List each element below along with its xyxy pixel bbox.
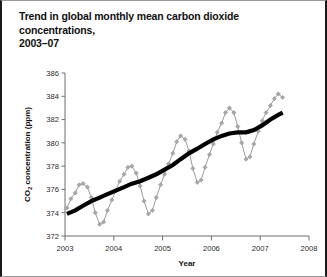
series-monthly-line bbox=[67, 94, 283, 224]
data-point-marker bbox=[142, 199, 146, 203]
data-point-marker bbox=[203, 165, 207, 169]
y-tick-label: 382 bbox=[46, 115, 59, 124]
data-point-marker bbox=[138, 184, 142, 188]
y-tick-label: 374 bbox=[46, 209, 59, 218]
chart-plot-area: 3723743763783803823843862003200420052006… bbox=[2, 1, 327, 277]
data-point-marker bbox=[171, 151, 175, 155]
data-point-marker bbox=[105, 208, 109, 212]
data-point-marker bbox=[77, 183, 81, 187]
co2-trend-chart: 3723743763783803823843862003200420052006… bbox=[2, 1, 327, 277]
data-point-marker bbox=[248, 155, 252, 159]
chart-series bbox=[65, 92, 285, 227]
data-point-marker bbox=[126, 165, 130, 169]
data-point-marker bbox=[220, 121, 224, 125]
data-point-marker bbox=[244, 157, 248, 161]
y-tick-label: 376 bbox=[46, 185, 59, 194]
x-tick-label: 2007 bbox=[252, 244, 269, 253]
data-point-marker bbox=[195, 180, 199, 184]
x-tick-label: 2006 bbox=[203, 244, 220, 253]
data-point-marker bbox=[159, 183, 163, 187]
data-point-marker bbox=[101, 220, 105, 224]
y-tick-label: 378 bbox=[46, 162, 59, 171]
data-point-marker bbox=[236, 124, 240, 128]
data-point-marker bbox=[207, 152, 211, 156]
data-point-marker bbox=[191, 166, 195, 170]
y-tick-label: 380 bbox=[46, 139, 59, 148]
data-point-marker bbox=[240, 141, 244, 145]
x-tick-label: 2003 bbox=[57, 244, 74, 253]
data-point-marker bbox=[154, 195, 158, 199]
data-point-marker bbox=[110, 198, 114, 202]
figure-container: Trend in global monthly mean carbon diox… bbox=[0, 0, 327, 277]
data-point-marker bbox=[199, 178, 203, 182]
series-trend-line bbox=[67, 113, 283, 214]
data-point-marker bbox=[98, 222, 102, 226]
y-axis-title: CO2 concentration (ppm) bbox=[23, 107, 33, 202]
x-axis-title: Year bbox=[179, 259, 196, 268]
data-point-marker bbox=[252, 142, 256, 146]
x-tick-label: 2004 bbox=[105, 244, 122, 253]
y-tick-label: 372 bbox=[46, 232, 59, 241]
y-tick-label: 386 bbox=[46, 69, 59, 78]
x-tick-label: 2008 bbox=[301, 244, 318, 253]
data-point-marker bbox=[93, 211, 97, 215]
x-tick-label: 2005 bbox=[154, 244, 171, 253]
y-tick-label: 384 bbox=[46, 92, 59, 101]
data-point-marker bbox=[215, 130, 219, 134]
